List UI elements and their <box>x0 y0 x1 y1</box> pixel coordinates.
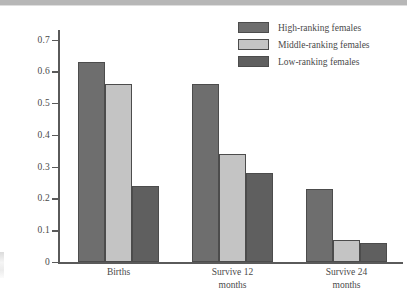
bar-group <box>78 30 159 262</box>
x-axis-category-label: Births <box>69 266 169 279</box>
x-axis-category-label: Survive 12 months <box>183 266 283 291</box>
legend-label: Low-ranking females <box>278 57 360 67</box>
bar <box>246 173 273 262</box>
y-axis-tick <box>52 262 58 263</box>
y-axis-tick-label: 0.4 <box>38 130 50 140</box>
legend-item-low-ranking-females: Low-ranking females <box>238 54 403 70</box>
bar-chart-figure: Events per year 00.10.20.30.40.50.60.7 B… <box>0 0 407 305</box>
y-axis-tick-label: 0.2 <box>38 193 50 203</box>
legend-swatch-icon <box>238 22 269 33</box>
bar <box>192 84 219 262</box>
legend-swatch-icon <box>238 56 269 67</box>
legend-item-middle-ranking-females: Middle-ranking females <box>238 37 403 53</box>
legend-swatch-icon <box>238 39 269 50</box>
y-axis-tick-labels: 00.10.20.30.40.50.60.7 <box>0 30 50 262</box>
top-rule-edge-decoration <box>0 5 407 6</box>
legend-label: High-ranking females <box>278 23 361 33</box>
bar <box>333 240 360 262</box>
chart-legend: High-ranking females Middle-ranking fema… <box>238 20 403 71</box>
y-axis-tick-label: 0.3 <box>38 162 50 172</box>
legend-label: Middle-ranking females <box>278 40 370 50</box>
y-axis-tick-label: 0 <box>45 257 50 267</box>
bar <box>306 189 333 262</box>
bar <box>360 243 387 262</box>
legend-item-high-ranking-females: High-ranking females <box>238 20 403 36</box>
bar <box>105 84 132 262</box>
x-axis-line <box>58 262 403 264</box>
bar <box>132 186 159 262</box>
x-axis-category-labels: BirthsSurvive 12 monthsSurvive 24 months <box>58 266 403 302</box>
y-axis-tick-label: 0.7 <box>38 35 50 45</box>
x-axis-category-label: Survive 24 months <box>297 266 397 291</box>
y-axis-tick-label: 0.5 <box>38 98 50 108</box>
y-axis-tick-label: 0.1 <box>38 225 50 235</box>
bar <box>219 154 246 262</box>
bar <box>78 62 105 262</box>
y-axis-tick-label: 0.6 <box>38 66 50 76</box>
